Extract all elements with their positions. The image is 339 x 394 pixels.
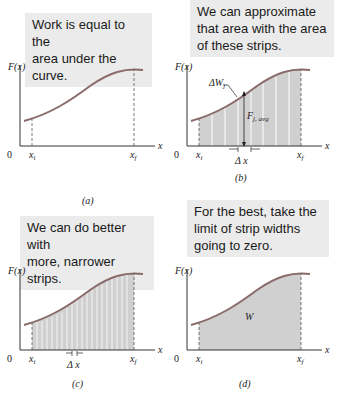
panel-label: (d) bbox=[239, 378, 251, 390]
xf-label: xf bbox=[129, 149, 137, 162]
panel-c: Δ x F(x) x 0 xi xf (c) bbox=[7, 265, 163, 390]
y-axis-label: F(x) bbox=[174, 61, 193, 73]
x-axis-label: x bbox=[157, 344, 163, 355]
y-axis-label: F(x) bbox=[174, 265, 193, 277]
xi-label: xi bbox=[28, 149, 35, 162]
delta-w-label: ΔWj bbox=[208, 77, 225, 90]
origin-label: 0 bbox=[174, 149, 179, 160]
dx-marker bbox=[66, 351, 83, 356]
y-axis-label: F(x) bbox=[7, 265, 26, 277]
y-axis-label: F(x) bbox=[7, 61, 26, 73]
x-axis-label: x bbox=[157, 140, 163, 151]
x-axis-label: x bbox=[324, 344, 330, 355]
origin-label: 0 bbox=[7, 353, 12, 364]
origin-label: 0 bbox=[174, 353, 179, 364]
panel-b: ΔWj Fj, avg Δ x F(x) x 0 xi xf (b) bbox=[174, 61, 330, 184]
xi-label: xi bbox=[195, 149, 202, 162]
panel-label: (a) bbox=[82, 195, 94, 207]
x-axis-label: x bbox=[324, 140, 330, 151]
dx-label: Δ x bbox=[234, 155, 248, 166]
panel-label: (b) bbox=[235, 172, 247, 184]
origin-label: 0 bbox=[7, 149, 12, 160]
xf-label: xf bbox=[296, 149, 304, 162]
xf-label: xf bbox=[296, 353, 304, 366]
diagram-canvas: F(x) x 0 xi xf (a) ΔWj Fj, avg Δ x F(x) … bbox=[0, 0, 339, 394]
dx-marker bbox=[229, 147, 260, 152]
xf-label: xf bbox=[129, 353, 137, 366]
dx-label: Δ x bbox=[66, 359, 80, 370]
xi-label: xi bbox=[28, 353, 35, 366]
panel-a: F(x) x 0 xi xf (a) bbox=[7, 61, 163, 207]
xi-label: xi bbox=[195, 353, 202, 366]
force-curve bbox=[24, 70, 143, 121]
panel-d: W F(x) x 0 xi xf (d) bbox=[174, 265, 330, 390]
panel-label: (c) bbox=[72, 378, 84, 390]
